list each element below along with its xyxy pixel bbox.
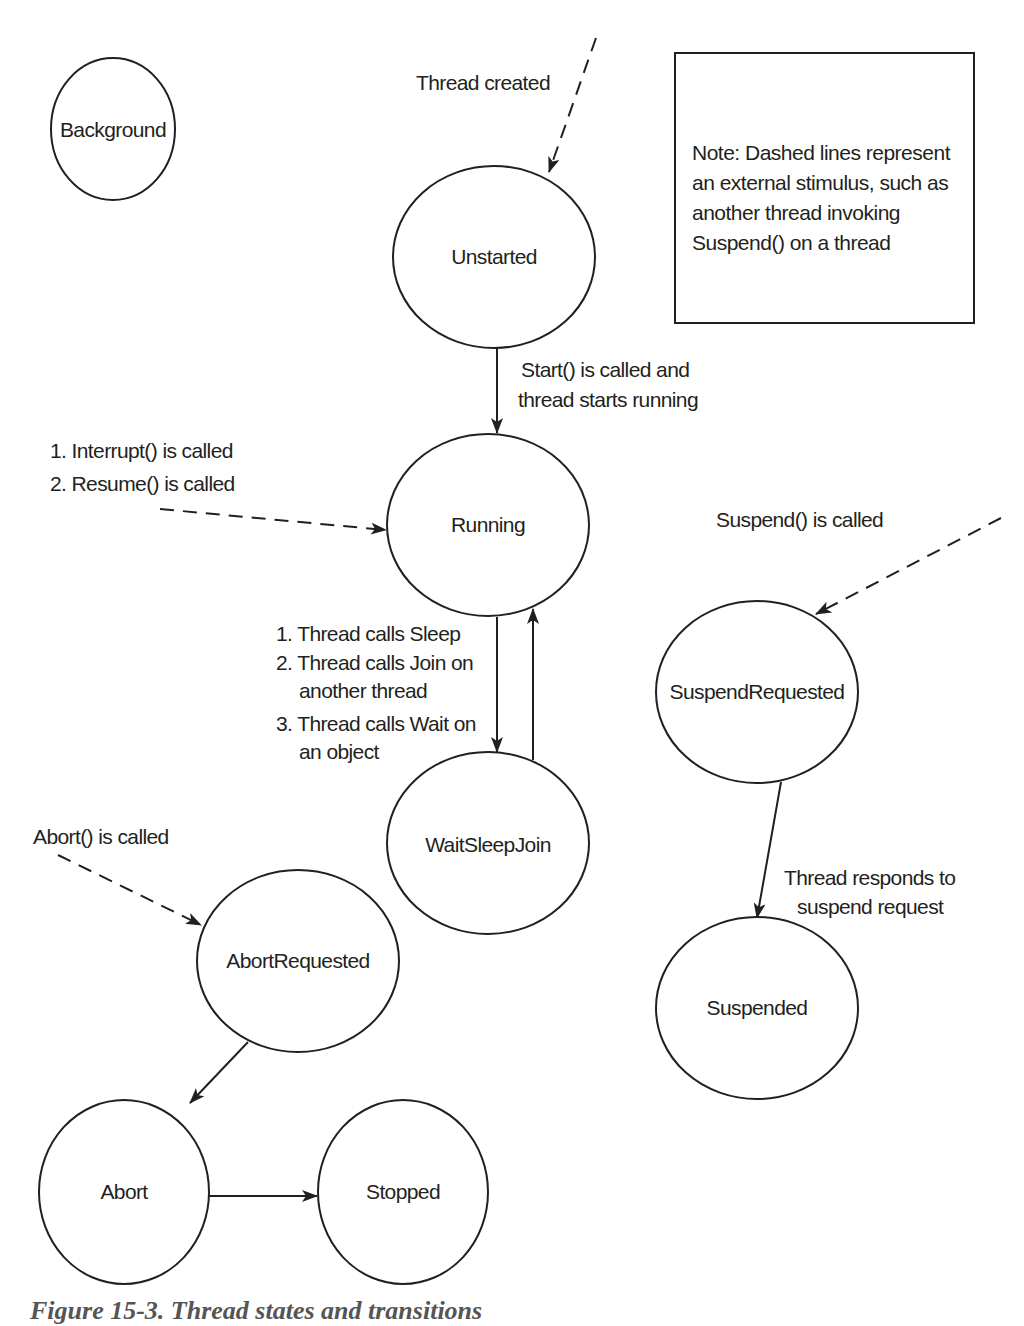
edge-label-thread-created: Thread created: [416, 71, 550, 94]
edge-label-resume: 2. Resume() is called: [50, 472, 235, 495]
state-label-stopped: Stopped: [366, 1180, 440, 1203]
edge-label-start-line-2: thread starts running: [518, 388, 698, 411]
edge-label-blocks-line-2: 2. Thread calls Join on: [276, 651, 473, 674]
state-abortrequested: AbortRequested: [197, 870, 399, 1052]
state-abort: Abort: [39, 1100, 209, 1284]
state-label-running: Running: [451, 513, 525, 536]
state-label-suspended: Suspended: [707, 996, 808, 1019]
state-label-background: Background: [60, 118, 166, 141]
state-suspendrequested: SuspendRequested: [656, 601, 858, 783]
edge-suspend-called: [816, 518, 1001, 614]
state-label-waitsleepjoin: WaitSleepJoin: [425, 833, 551, 856]
edge-label-start-line-1: Start() is called and: [521, 358, 689, 381]
edge-label-blocks-line-5: an object: [299, 740, 380, 763]
state-label-suspendrequested: SuspendRequested: [670, 680, 845, 703]
note-box: Note: Dashed lines represent an external…: [675, 53, 974, 323]
note-line-3: another thread invoking: [692, 201, 900, 224]
edge-thread-created: [549, 38, 596, 172]
edge-label-blocks-line-1: 1. Thread calls Sleep: [276, 622, 460, 645]
note-line-2: an external stimulus, such as: [692, 171, 948, 194]
state-running: Running: [387, 434, 589, 616]
edge-label-suspend-response-line-2: suspend request: [797, 895, 944, 918]
state-background: Background: [51, 58, 175, 200]
edge-label-suspend-response-line-1: Thread responds to: [784, 866, 955, 889]
state-label-unstarted: Unstarted: [451, 245, 537, 268]
state-stopped: Stopped: [318, 1100, 488, 1284]
state-label-abort: Abort: [100, 1180, 148, 1203]
edge-label-abort-called: Abort() is called: [33, 825, 169, 848]
note-line-4: Suspend() on a thread: [692, 231, 890, 254]
edge-abort-called: [58, 855, 201, 925]
state-unstarted: Unstarted: [393, 166, 595, 348]
state-suspended: Suspended: [656, 917, 858, 1099]
state-label-abortrequested: AbortRequested: [226, 949, 369, 972]
edge-label-suspend-called: Suspend() is called: [716, 508, 883, 531]
state-waitsleepjoin: WaitSleepJoin: [387, 752, 589, 934]
edge-suspend-response: [757, 782, 781, 918]
edge-label-interrupt: 1. Interrupt() is called: [50, 439, 233, 462]
note-line-1: Note: Dashed lines represent: [692, 141, 951, 164]
figure-caption: Figure 15-3. Thread states and transitio…: [30, 1296, 482, 1326]
edge-label-blocks-line-4: 3. Thread calls Wait on: [276, 712, 476, 735]
edge-abortrequested-to-abort: [190, 1042, 248, 1103]
edge-interrupt-resume: [160, 509, 386, 530]
edge-label-blocks-line-3: another thread: [299, 679, 427, 702]
